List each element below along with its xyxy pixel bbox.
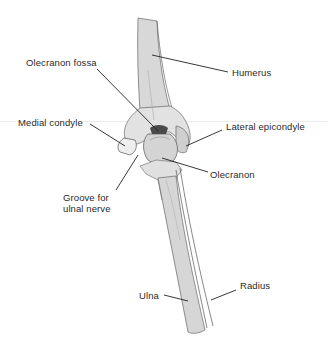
- label-radius: Radius: [240, 281, 270, 291]
- label-humerus: Humerus: [232, 68, 271, 78]
- label-lateral-epicondyle: Lateral epicondyle: [226, 122, 305, 132]
- label-medial-condyle: Medial condyle: [18, 118, 83, 128]
- label-olecranon-fossa: Olecranon fossa: [26, 58, 97, 68]
- label-groove-ulnar-nerve-line1: Groove for: [63, 193, 109, 203]
- elbow-illustration: [0, 0, 328, 352]
- olecranon-bone: [144, 134, 178, 165]
- label-groove-ulnar-nerve-line2: ulnal nerve: [63, 204, 111, 214]
- olecranon-fossa-shape: [150, 125, 168, 134]
- label-olecranon: Olecranon: [210, 170, 255, 180]
- label-ulna: Ulna: [139, 291, 159, 301]
